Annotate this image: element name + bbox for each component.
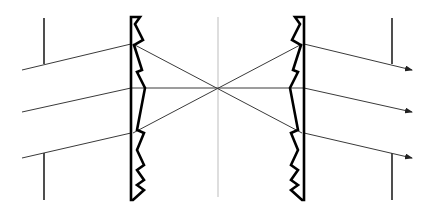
incoming-ray bbox=[22, 88, 131, 112]
left-fresnel-lens bbox=[131, 17, 145, 200]
diagram-canvas bbox=[0, 0, 440, 218]
incoming-ray bbox=[22, 44, 131, 70]
outgoing-ray-arrow bbox=[304, 133, 412, 158]
outgoing-ray-arrow bbox=[304, 44, 412, 70]
right-fresnel-lens bbox=[290, 17, 304, 200]
light-rays bbox=[22, 44, 412, 158]
fresnel-lens-diagram bbox=[0, 0, 440, 218]
outgoing-ray-arrow bbox=[304, 88, 412, 112]
incoming-ray bbox=[22, 133, 131, 158]
